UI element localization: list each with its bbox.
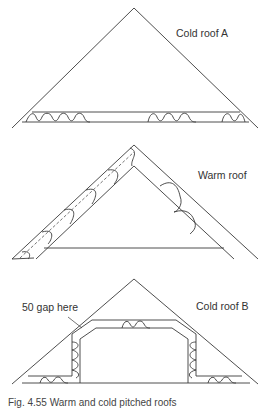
insulation-left-floor [40, 377, 68, 383]
rafter-left [12, 8, 134, 128]
rafter-right [134, 8, 258, 128]
insulation-right-end [222, 114, 245, 122]
cold-roof-a-diagram [12, 8, 258, 128]
label-cold-roof-a: Cold roof A [176, 27, 228, 39]
rafter-left [12, 279, 134, 384]
inner-outline [80, 328, 188, 383]
figure-caption: Fig. 4.55 Warm and cold pitched roofs [8, 397, 177, 408]
cold-roof-b-diagram [12, 279, 258, 384]
insulation-right [148, 113, 196, 122]
insulation-top [122, 321, 150, 328]
insulation-left [22, 148, 135, 259]
annotation-leader [68, 317, 82, 328]
warm-roof-diagram [12, 145, 258, 259]
inner-left [36, 166, 134, 259]
left-end-cap [12, 258, 34, 259]
insulation-right-floor [208, 377, 236, 383]
insulation-left-wall [72, 342, 79, 378]
label-warm-roof: Warm roof [198, 169, 247, 181]
label-cold-roof-b: Cold roof B [196, 300, 249, 312]
insulation-right-wall [189, 342, 196, 378]
outer-left [12, 145, 134, 259]
insulation-right [160, 183, 195, 234]
annotation-50-gap: 50 gap here [22, 301, 78, 313]
membrane-dashed [20, 152, 134, 258]
insulation-left [26, 113, 90, 122]
outer-right [134, 145, 258, 259]
